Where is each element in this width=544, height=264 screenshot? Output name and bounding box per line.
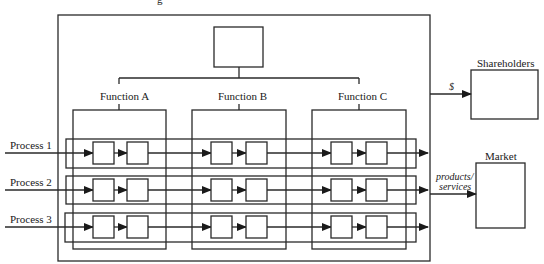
shareholders-label: Shareholders [477,58,534,69]
function-a-box [73,110,166,249]
market-box [476,163,525,228]
diagram-canvas [0,0,544,264]
process-2-label: Process 2 [10,177,52,188]
function-c-box [312,110,406,249]
function-b-box [192,110,286,249]
market-label: Market [485,151,517,162]
top-management-box [214,27,263,67]
top-text-fragment: g [157,0,163,5]
function-c-label: Function C [338,91,387,102]
money-flow-label: $ [449,82,454,92]
process-3-label: Process 3 [10,214,52,225]
function-a-label: Function A [100,91,149,102]
shareholders-box [471,70,538,119]
function-b-label: Function B [218,91,267,102]
products-flow-label-line2: services [439,182,471,192]
process-1-label: Process 1 [10,140,52,151]
